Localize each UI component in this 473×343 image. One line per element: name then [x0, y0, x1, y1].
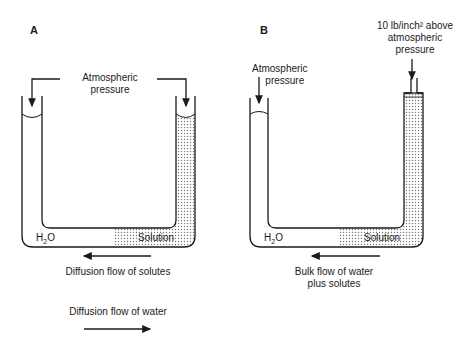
pressure-label-b-left-line1: Atmospheric: [252, 63, 308, 75]
pressure-label-b-left: Atmospheric pressure: [252, 63, 308, 87]
solution-label-b: Solution: [364, 232, 400, 244]
water-flow-caption: Diffusion flow of water: [48, 306, 188, 318]
bulk-flow-caption-line2: plus solutes: [284, 278, 384, 290]
bulk-flow-caption: Bulk flow of water plus solutes: [284, 266, 384, 290]
pressure-label-a-line2: pressure: [70, 84, 150, 96]
solute-flow-caption: Diffusion flow of solutes: [48, 266, 188, 278]
pressure-label-a-line1: Atmospheric: [70, 72, 150, 84]
water-label-b: H2O: [264, 232, 283, 248]
panel-label-a: A: [30, 24, 38, 36]
pressure-label-b-right-line1: 10 lb/inch² above: [360, 20, 470, 32]
u-tube-b: [250, 78, 423, 247]
panel-label-b: B: [260, 24, 268, 36]
pressure-label-b-right: 10 lb/inch² above atmospheric pressure: [360, 20, 470, 56]
pressure-label-a: Atmospheric pressure: [70, 72, 150, 96]
pressure-label-b-left-line2: pressure: [252, 75, 308, 87]
water-label-a: H2O: [36, 232, 55, 248]
u-tube-a: [22, 96, 195, 247]
pressure-label-b-right-line3: pressure: [360, 44, 470, 56]
pressure-label-b-right-line2: atmospheric: [360, 32, 470, 44]
solution-label-a: Solution: [138, 232, 174, 244]
bulk-flow-caption-line1: Bulk flow of water: [284, 266, 384, 278]
pressure-arrow-a-right: [157, 79, 186, 106]
pressure-arrow-a-left: [32, 79, 60, 106]
